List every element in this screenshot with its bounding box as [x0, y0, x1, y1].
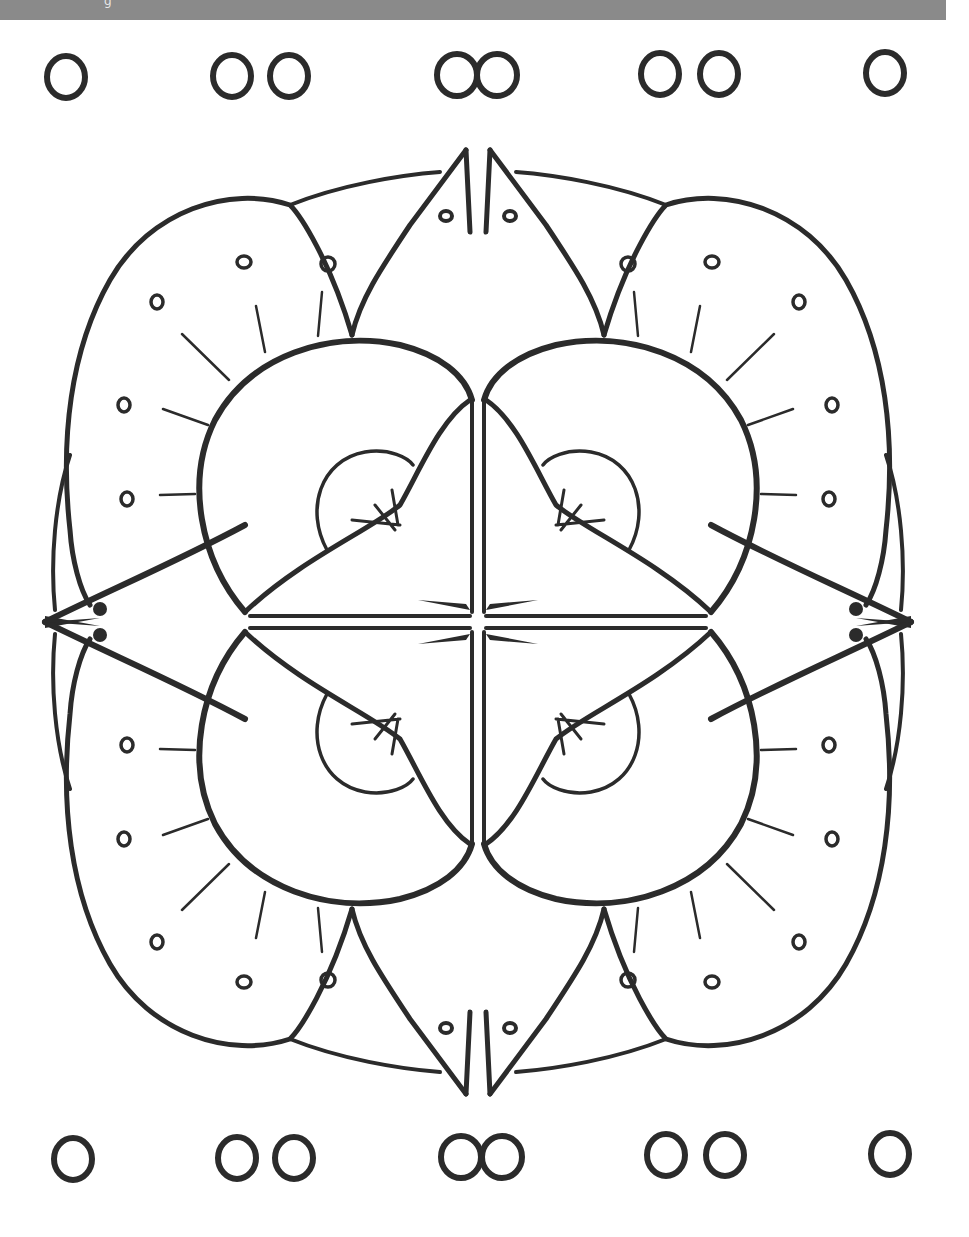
oval-icon: [270, 55, 308, 97]
quadrant-bottom-left: [45, 616, 472, 1094]
mandala-artwork: [0, 0, 969, 1237]
oval-icon: [482, 1136, 522, 1178]
oval-icon: [477, 54, 517, 96]
quadrant-top-right: [484, 150, 911, 628]
oval-icon: [275, 1137, 313, 1179]
oval-icon: [866, 52, 904, 94]
oval-icon: [437, 54, 477, 96]
bottom-oval-row: [54, 1133, 909, 1180]
oval-icon: [641, 53, 679, 95]
quadrant-bottom-right: [484, 616, 911, 1094]
oval-icon: [871, 1133, 909, 1175]
mandala: [45, 150, 911, 1094]
oval-icon: [218, 1137, 256, 1179]
top-oval-row: [47, 52, 904, 98]
quadrant-top-left: [45, 150, 472, 628]
oval-icon: [213, 55, 251, 97]
oval-icon: [441, 1136, 481, 1178]
oval-icon: [647, 1134, 685, 1176]
oval-icon: [706, 1134, 744, 1176]
oval-icon: [47, 56, 85, 98]
oval-icon: [54, 1138, 92, 1180]
oval-icon: [700, 53, 738, 95]
